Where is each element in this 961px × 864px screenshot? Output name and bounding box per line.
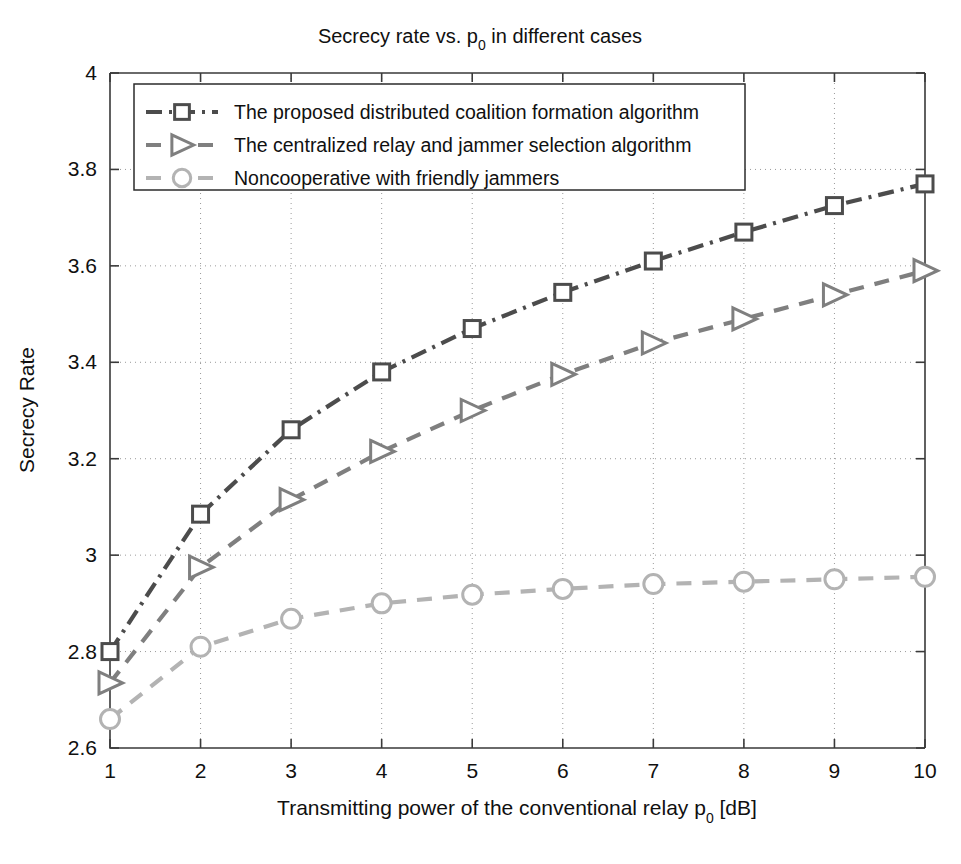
y-axis-label-text: Secrecy Rate xyxy=(15,347,38,473)
data-point-marker-square xyxy=(555,284,571,300)
secrecy-rate-line-chart: 12345678910 2.62.833.23.43.63.84 Secrecy… xyxy=(0,0,961,864)
data-point-marker-square xyxy=(193,506,209,522)
x-tick-label: 2 xyxy=(195,759,207,782)
chart-title: Secrecy rate vs. p0 in different cases xyxy=(318,25,642,53)
y-tick-label: 2.8 xyxy=(68,640,97,663)
data-point-marker-square xyxy=(645,253,661,269)
x-tick-label: 5 xyxy=(466,759,478,782)
y-tick-label: 3.6 xyxy=(68,254,97,277)
data-point-marker-square xyxy=(826,198,842,214)
x-tick-label: 3 xyxy=(285,759,297,782)
x-tick-label: 4 xyxy=(376,759,388,782)
y-tick-label: 3.8 xyxy=(68,157,97,180)
x-tick-label: 7 xyxy=(647,759,659,782)
y-tick-label: 3.4 xyxy=(68,350,98,373)
y-tick-label: 2.6 xyxy=(68,736,97,759)
data-point-marker-circle xyxy=(734,572,753,591)
x-axis-label: Transmitting power of the conventional r… xyxy=(277,796,757,826)
chart-title-subscript: 0 xyxy=(478,37,486,53)
data-point-marker-square xyxy=(102,644,118,660)
x-axis-label-main: Transmitting power of the conventional r… xyxy=(277,796,706,819)
y-tick-label: 3.2 xyxy=(68,447,97,470)
data-point-marker-circle xyxy=(825,570,844,589)
data-point-marker-circle xyxy=(916,567,935,586)
data-point-marker-circle xyxy=(282,609,301,628)
data-point-marker-circle xyxy=(191,637,210,656)
x-tick-label: 8 xyxy=(738,759,750,782)
svg-text:Transmitting power of the conv: Transmitting power of the conventional r… xyxy=(277,796,757,826)
svg-text:Secrecy rate vs. p0 in differe: Secrecy rate vs. p0 in different cases xyxy=(318,25,642,53)
data-point-marker-circle xyxy=(553,579,572,598)
legend-label: Noncooperative with friendly jammers xyxy=(234,167,559,189)
chart-title-tail: in different cases xyxy=(486,25,642,47)
chart-title-main: Secrecy rate vs. p xyxy=(318,25,478,47)
data-point-marker-circle xyxy=(372,594,391,613)
y-axis-label: Secrecy Rate xyxy=(15,347,38,473)
data-point-marker-circle xyxy=(101,710,120,729)
x-tick-label: 1 xyxy=(104,759,116,782)
y-tick-label: 3 xyxy=(85,543,97,566)
chart-figure: 12345678910 2.62.833.23.43.63.84 Secrecy… xyxy=(0,0,961,864)
data-point-marker-square xyxy=(464,321,480,337)
data-point-marker-square xyxy=(175,105,190,120)
legend-label: The centralized relay and jammer selecti… xyxy=(234,134,691,156)
x-tick-label: 6 xyxy=(557,759,569,782)
data-point-marker-right-triangle xyxy=(914,260,938,282)
data-point-marker-square xyxy=(374,364,390,380)
data-point-marker-circle xyxy=(173,169,190,186)
legend-label: The proposed distributed coalition forma… xyxy=(234,101,699,123)
data-point-marker-circle xyxy=(644,575,663,594)
x-tick-label: 10 xyxy=(913,759,936,782)
data-point-marker-circle xyxy=(463,585,482,604)
data-point-marker-square xyxy=(736,224,752,240)
data-point-marker-square xyxy=(917,176,933,192)
x-axis-label-subscript: 0 xyxy=(706,810,714,826)
chart-legend: The proposed distributed coalition forma… xyxy=(134,84,745,190)
data-point-marker-square xyxy=(283,422,299,438)
y-tick-label: 4 xyxy=(85,61,97,84)
x-tick-label: 9 xyxy=(829,759,841,782)
x-axis-label-tail: [dB] xyxy=(714,796,757,819)
